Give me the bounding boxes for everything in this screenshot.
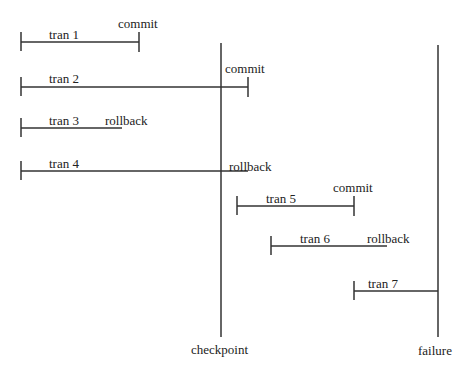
tran-1-bar xyxy=(21,32,139,52)
tran-1-label: tran 1 xyxy=(49,28,79,41)
tran-2-end-label: commit xyxy=(225,62,265,75)
tran-4-end-label: rollback xyxy=(229,160,272,173)
tran-5-label: tran 5 xyxy=(266,192,296,205)
tran-6-label: tran 6 xyxy=(300,232,330,245)
tran-5-end-label: commit xyxy=(333,181,373,194)
tran-2-label: tran 2 xyxy=(49,72,79,85)
checkpoint-label: checkpoint xyxy=(191,343,248,356)
tran-3-label: tran 3 xyxy=(49,114,79,127)
tran-6-end-label: rollback xyxy=(367,232,410,245)
tran-7-label: tran 7 xyxy=(368,277,398,290)
tran-4-label: tran 4 xyxy=(49,157,79,170)
tran-1-end-label: commit xyxy=(118,17,158,30)
failure-label: failure xyxy=(418,344,452,357)
diagram-canvas xyxy=(0,0,471,371)
tran-3-end-label: rollback xyxy=(105,114,148,127)
